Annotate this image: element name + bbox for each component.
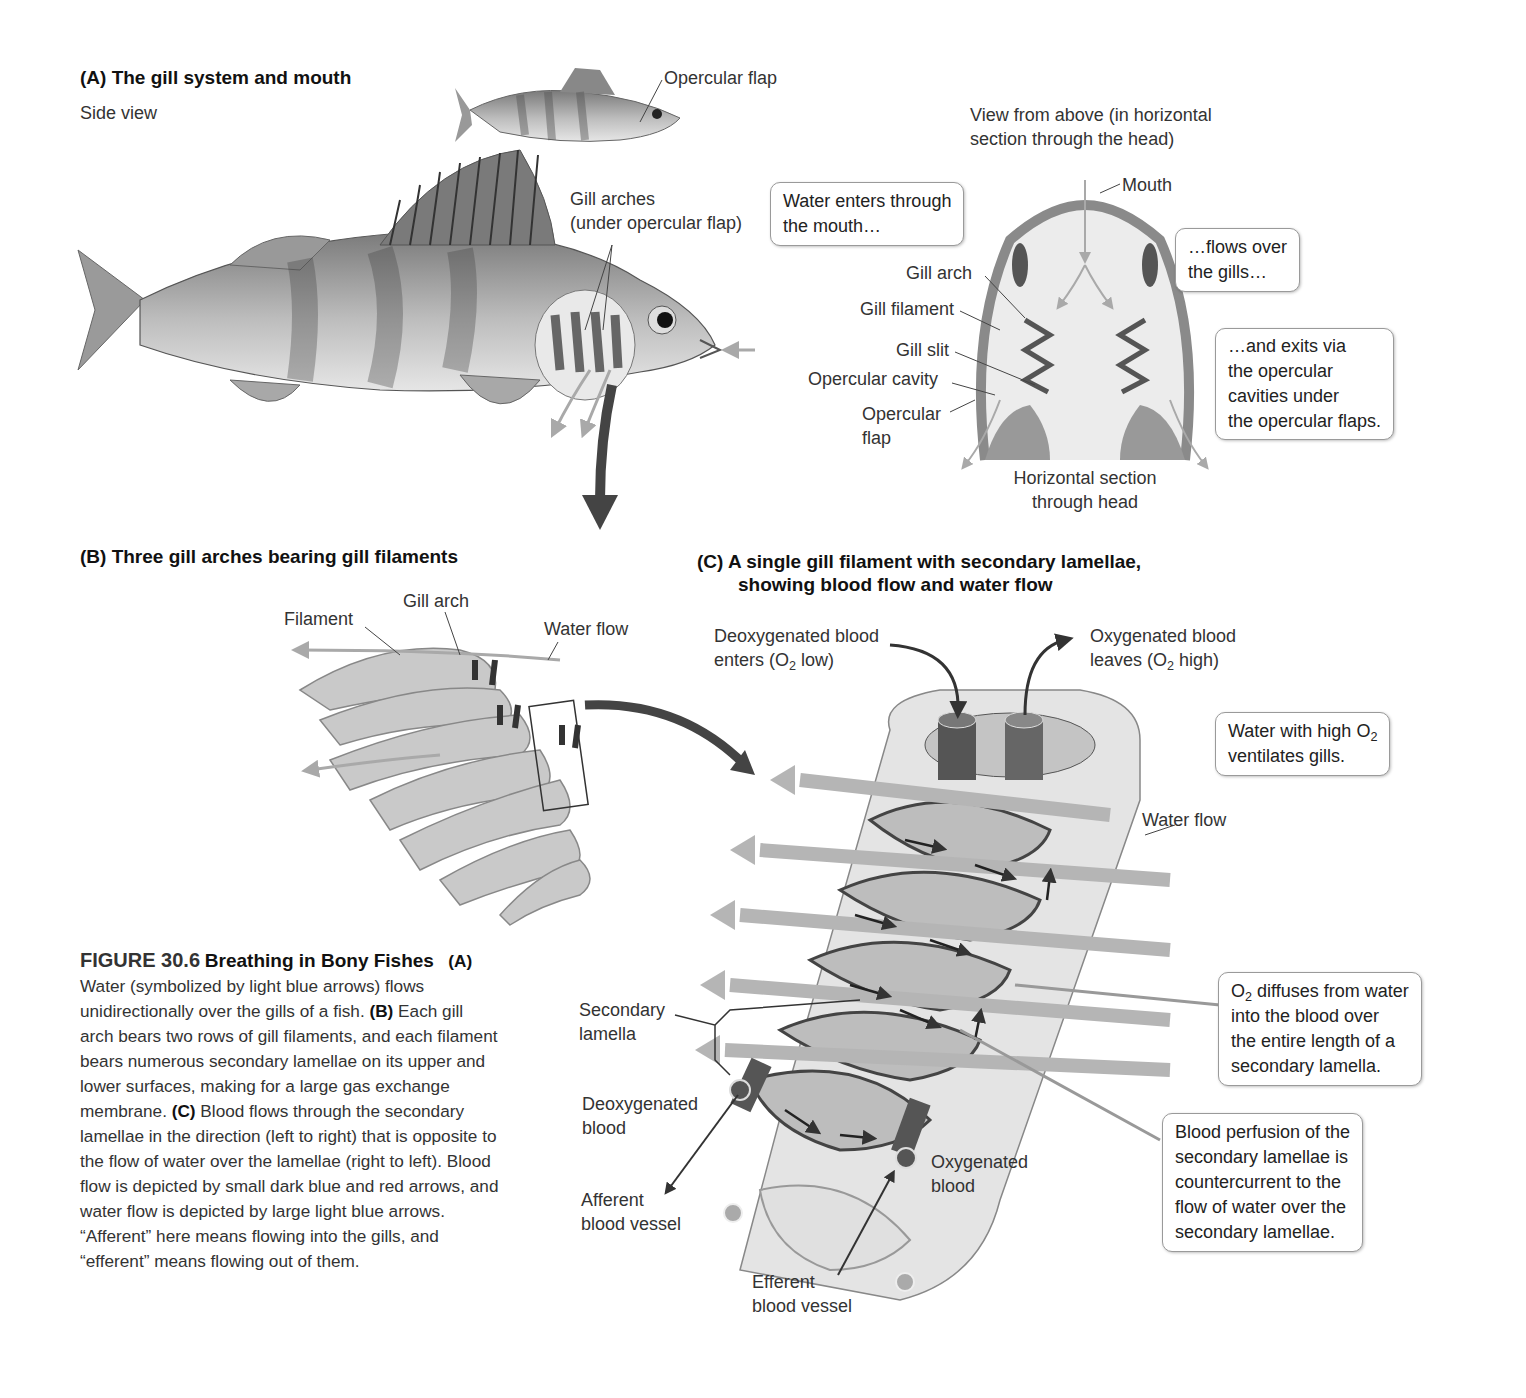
- callout-line: Water enters through: [783, 189, 951, 214]
- callout-line: secondary lamellae.: [1175, 1220, 1350, 1245]
- water-flow-label-b: Water flow: [544, 617, 628, 641]
- small-fish-illustration: [455, 68, 680, 142]
- gill-arches-illustration: [300, 612, 755, 925]
- text: enters (O: [714, 650, 789, 670]
- callout-line: the mouth…: [783, 214, 951, 239]
- text: diffuses from water: [1252, 981, 1409, 1001]
- subscript: 2: [1245, 990, 1252, 1004]
- secondary-lamella-label-2: lamella: [579, 1022, 636, 1046]
- subscript: 2: [1167, 659, 1174, 673]
- side-view-label: Side view: [80, 101, 157, 125]
- callout-line: the opercular flaps.: [1228, 409, 1381, 434]
- deoxy-blood-label-1: Deoxygenated: [582, 1092, 698, 1116]
- callout-line: Water with high O2: [1228, 719, 1377, 744]
- subscript: 2: [789, 659, 796, 673]
- figure-caption: FIGURE 30.6 Breathing in Bony Fishes (A)…: [80, 948, 500, 1274]
- figure-number: FIGURE 30.6: [80, 949, 200, 971]
- caption-tag-b: (B): [369, 1001, 393, 1021]
- gill-arches-label: Gill arches: [570, 187, 655, 211]
- opercular-flap-label: Opercular flap: [664, 66, 777, 90]
- afferent-label-2: blood vessel: [581, 1212, 681, 1236]
- deoxy-blood-label-2: blood: [582, 1116, 626, 1140]
- callout-line: O2 diffuses from water: [1231, 979, 1409, 1004]
- caption-tag-a: (A): [448, 951, 472, 971]
- callout-line: flow of water over the: [1175, 1195, 1350, 1220]
- caption-tag-c: (C): [172, 1101, 196, 1121]
- callout-line: …flows over: [1188, 235, 1287, 260]
- gill-arches-sublabel: (under opercular flap): [570, 211, 742, 235]
- callout-water-enters: Water enters through the mouth…: [770, 182, 964, 246]
- horizontal-section-label-2: through head: [995, 490, 1175, 514]
- callout-flows-over-gills: …flows over the gills…: [1175, 228, 1300, 292]
- opercular-flap-label-top: Opercular: [862, 402, 941, 426]
- efferent-label-2: blood vessel: [752, 1294, 852, 1318]
- efferent-label-1: Efferent: [752, 1270, 815, 1294]
- text: leaves (O: [1090, 650, 1167, 670]
- head-section-illustration: [950, 180, 1205, 465]
- top-view-heading-1: View from above (in horizontal: [970, 103, 1212, 127]
- deoxy-enters-label-2: enters (O2 low): [714, 648, 834, 672]
- callout-line: Blood perfusion of the: [1175, 1120, 1350, 1145]
- horizontal-section-label-1: Horizontal section: [995, 466, 1175, 490]
- water-flow-label-c: Water flow: [1142, 808, 1226, 832]
- callout-line: the opercular: [1228, 359, 1381, 384]
- callout-line: countercurrent to the: [1175, 1170, 1350, 1195]
- afferent-label-1: Afferent: [581, 1188, 644, 1212]
- callout-line: secondary lamellae is: [1175, 1145, 1350, 1170]
- gill-filament-label: Gill filament: [860, 297, 954, 321]
- gill-arch-label: Gill arch: [906, 261, 972, 285]
- gill-slit-label: Gill slit: [896, 338, 949, 362]
- callout-blood-perfusion: Blood perfusion of the secondary lamella…: [1162, 1113, 1363, 1252]
- subscript: 2: [1370, 730, 1377, 744]
- callout-line: ventilates gills.: [1228, 744, 1377, 769]
- callout-exits-opercular: …and exits via the opercular cavities un…: [1215, 328, 1394, 440]
- callout-line: the entire length of a: [1231, 1029, 1409, 1054]
- mouth-label: Mouth: [1122, 173, 1172, 197]
- deoxy-enters-label-1: Deoxygenated blood: [714, 624, 879, 648]
- panel-b-title: (B) Three gill arches bearing gill filam…: [80, 545, 458, 569]
- opercular-flap-label-top-2: flap: [862, 426, 891, 450]
- text: O: [1231, 981, 1245, 1001]
- gill-arch-label-b: Gill arch: [403, 589, 469, 613]
- gill-filament-illustration: [668, 640, 1220, 1300]
- secondary-lamella-label-1: Secondary: [579, 998, 665, 1022]
- text: low): [796, 650, 834, 670]
- text: high): [1174, 650, 1219, 670]
- callout-o2-diffuses: O2 diffuses from water into the blood ov…: [1218, 972, 1422, 1086]
- callout-line: the gills…: [1188, 260, 1287, 285]
- opercular-cavity-label: Opercular cavity: [808, 367, 938, 391]
- top-view-heading-2: section through the head): [970, 127, 1174, 151]
- caption-text-c: Blood flows through the secondary lamell…: [80, 1101, 498, 1271]
- filament-label: Filament: [284, 607, 353, 631]
- callout-line: cavities under: [1228, 384, 1381, 409]
- oxy-blood-label-1: Oxygenated: [931, 1150, 1028, 1174]
- oxy-leaves-label-2: leaves (O2 high): [1090, 648, 1219, 672]
- callout-high-o2: Water with high O2 ventilates gills.: [1215, 712, 1390, 776]
- oxy-blood-label-2: blood: [931, 1174, 975, 1198]
- figure-title: Breathing in Bony Fishes: [205, 950, 434, 971]
- text: Water with high O: [1228, 721, 1370, 741]
- oxy-leaves-label-1: Oxygenated blood: [1090, 624, 1236, 648]
- callout-line: …and exits via: [1228, 334, 1381, 359]
- panel-a-title: (A) The gill system and mouth: [80, 66, 351, 90]
- panel-c-title-1: (C) A single gill filament with secondar…: [697, 550, 1141, 574]
- callout-line: into the blood over: [1231, 1004, 1409, 1029]
- panel-c-title-2: showing blood flow and water flow: [738, 573, 1053, 597]
- callout-line: secondary lamella.: [1231, 1054, 1409, 1079]
